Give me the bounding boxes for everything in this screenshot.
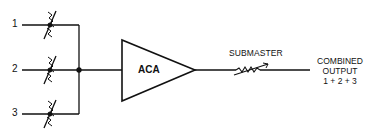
output-label-line2: OUTPUT xyxy=(305,66,375,76)
submaster-fader-icon xyxy=(234,63,268,75)
junction-dot xyxy=(77,68,81,72)
input-label-2: 2 xyxy=(12,63,18,74)
output-label: COMBINED OUTPUT 1 + 2 + 3 xyxy=(305,56,375,86)
submaster-label: SUBMASTER xyxy=(229,48,283,58)
input-label-3: 3 xyxy=(12,107,18,118)
output-label-line3: 1 + 2 + 3 xyxy=(305,76,375,86)
input-label-1: 1 xyxy=(12,18,18,29)
amplifier-label: ACA xyxy=(138,64,160,75)
output-label-line1: COMBINED xyxy=(305,56,375,66)
